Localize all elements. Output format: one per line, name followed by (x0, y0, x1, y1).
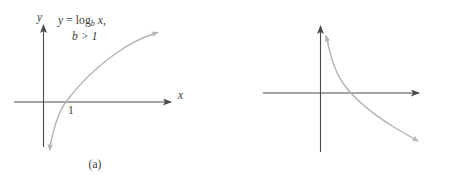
log-curve-upper-arrow (326, 36, 328, 44)
log-curve-increasing (50, 33, 158, 148)
figure-logarithm-graphs: y = logb x, b > 1 y x 1 (a) (0, 0, 461, 181)
panel-b: y = logb x, 0 < b < 1 y x 1 (b) (231, 0, 461, 181)
x-axis-label-a: x (178, 89, 183, 101)
panel-a: y = logb x, b > 1 y x 1 (a) (0, 0, 231, 181)
panel-b-plot (231, 0, 461, 181)
y-axis-label-a: y (37, 11, 42, 23)
log-curve-decreasing (327, 39, 418, 141)
log-curve-lower-arrow (50, 142, 51, 150)
x-intercept-label-a: 1 (68, 104, 74, 116)
equation-a-line1: y = logb x, (58, 13, 106, 29)
equation-a: y = logb x, b > 1 (58, 13, 106, 44)
equation-a-condition: b > 1 (58, 29, 106, 44)
caption-a: (a) (75, 158, 115, 170)
panel-a-plot (0, 0, 231, 181)
